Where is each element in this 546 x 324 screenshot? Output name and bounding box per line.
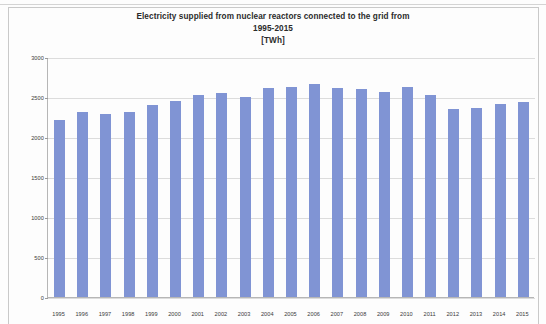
chart-subtitle: 1995-2015	[0, 23, 546, 35]
bar[interactable]	[286, 87, 297, 297]
bar-slot	[303, 57, 326, 297]
bar[interactable]	[518, 102, 529, 297]
bar[interactable]	[448, 109, 459, 297]
x-label-slot: 2014	[488, 302, 511, 320]
y-axis-tick-label: 500	[34, 255, 44, 261]
y-axis-tick-label: 0	[41, 295, 44, 301]
x-label-slot: 2013	[464, 302, 487, 320]
bar-slot	[465, 57, 488, 297]
bar[interactable]	[170, 101, 181, 297]
bar-slot	[210, 57, 233, 297]
x-label-slot: 2009	[372, 302, 395, 320]
bar[interactable]	[425, 95, 436, 297]
bar-slot	[419, 57, 442, 297]
bar[interactable]	[240, 97, 251, 297]
x-axis-tick-label: 1999	[145, 311, 158, 317]
x-axis-tick-label: 2006	[307, 311, 320, 317]
x-label-slot: 2008	[348, 302, 371, 320]
bar[interactable]	[100, 114, 111, 297]
bar-series	[48, 57, 535, 297]
x-label-slot: 2000	[163, 302, 186, 320]
scan-edge-line	[0, 4, 546, 5]
bar[interactable]	[54, 120, 65, 297]
chart-figure: Electricity supplied from nuclear reacto…	[0, 0, 546, 324]
x-axis-tick-label: 2003	[238, 311, 251, 317]
bar[interactable]	[263, 88, 274, 297]
y-axis-tick-label: 3000	[31, 55, 44, 61]
x-axis-tick-label: 1997	[99, 311, 112, 317]
x-axis-tick-label: 2000	[168, 311, 181, 317]
chart-title-block: Electricity supplied from nuclear reacto…	[0, 11, 546, 48]
x-axis-tick-label: 1996	[75, 311, 88, 317]
x-label-slot: 1995	[47, 302, 70, 320]
bar-slot	[94, 57, 117, 297]
bar[interactable]	[379, 92, 390, 297]
x-label-slot: 1997	[93, 302, 116, 320]
x-axis-tick-label: 2012	[446, 311, 459, 317]
x-axis-tick-label: 2001	[191, 311, 204, 317]
bar[interactable]	[77, 112, 88, 297]
bar[interactable]	[495, 104, 506, 297]
x-label-slot: 2006	[302, 302, 325, 320]
bar-slot	[280, 57, 303, 297]
plot-area: 300025002000150010005000	[47, 58, 534, 298]
bar-slot	[234, 57, 257, 297]
bar[interactable]	[193, 95, 204, 297]
bar-slot	[118, 57, 141, 297]
y-tick-mark	[45, 298, 48, 299]
x-label-slot: 2001	[186, 302, 209, 320]
x-label-slot: 2011	[418, 302, 441, 320]
gridline: 0	[48, 298, 535, 299]
bar[interactable]	[216, 93, 227, 297]
bar[interactable]	[471, 108, 482, 297]
x-label-slot: 1996	[70, 302, 93, 320]
bar-slot	[349, 57, 372, 297]
x-axis-tick-label: 2013	[470, 311, 483, 317]
x-axis-tick-label: 2015	[516, 311, 529, 317]
y-axis-tick-label: 2500	[31, 95, 44, 101]
x-label-slot: 2012	[441, 302, 464, 320]
bar-slot	[326, 57, 349, 297]
x-axis-tick-label: 2010	[400, 311, 413, 317]
x-axis-tick-label: 2005	[284, 311, 297, 317]
x-label-slot: 2003	[233, 302, 256, 320]
x-label-slot: 2002	[209, 302, 232, 320]
chart-title: Electricity supplied from nuclear reacto…	[0, 11, 546, 23]
y-axis-tick-label: 1500	[31, 175, 44, 181]
bar[interactable]	[124, 112, 135, 297]
x-axis-tick-label: 1995	[52, 311, 65, 317]
y-axis-tick-label: 2000	[31, 135, 44, 141]
plot-wrapper: 300025002000150010005000	[47, 58, 534, 298]
x-label-slot: 2015	[511, 302, 534, 320]
bar-slot	[396, 57, 419, 297]
y-axis-tick-label: 1000	[31, 215, 44, 221]
bar-slot	[187, 57, 210, 297]
bar[interactable]	[147, 105, 158, 297]
x-axis-tick-label: 2009	[377, 311, 390, 317]
bar-slot	[373, 57, 396, 297]
x-label-slot: 2010	[395, 302, 418, 320]
bar-slot	[48, 57, 71, 297]
bar[interactable]	[402, 87, 413, 297]
bar[interactable]	[309, 84, 320, 297]
x-label-slot: 2007	[325, 302, 348, 320]
x-axis-tick-label: 2008	[354, 311, 367, 317]
chart-unit-label: [TWh]	[0, 35, 546, 47]
x-axis-tick-label: 1998	[122, 311, 135, 317]
x-label-slot: 1998	[117, 302, 140, 320]
x-axis-tick-label: 2014	[493, 311, 506, 317]
bar-slot	[489, 57, 512, 297]
bar-slot	[257, 57, 280, 297]
bar-slot	[71, 57, 94, 297]
bar-slot	[141, 57, 164, 297]
bar-slot	[442, 57, 465, 297]
bar[interactable]	[356, 89, 367, 297]
bar[interactable]	[332, 88, 343, 297]
x-axis-tick-label: 2011	[423, 311, 435, 317]
x-label-slot: 2004	[256, 302, 279, 320]
x-axis-tick-label: 2002	[215, 311, 228, 317]
x-label-slot: 1999	[140, 302, 163, 320]
bar-slot	[164, 57, 187, 297]
x-axis-tick-label: 2007	[331, 311, 344, 317]
x-axis-tick-label: 2004	[261, 311, 274, 317]
